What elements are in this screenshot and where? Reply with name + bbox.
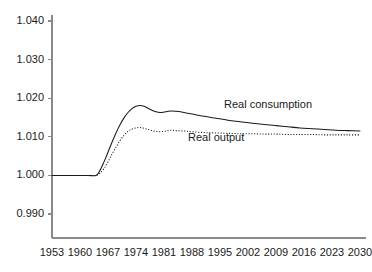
x-axis-tick-label: 1953 <box>40 246 64 258</box>
x-axis-tick-label: 1967 <box>96 246 120 258</box>
x-axis-tick-label: 2030 <box>348 246 372 258</box>
y-axis-tick-label: 1.040 <box>16 14 44 26</box>
x-axis-tick-label: 1988 <box>180 246 204 258</box>
series-annotation-label: Real output <box>188 131 244 143</box>
y-axis-tick-label: 1.030 <box>16 53 44 65</box>
x-axis-tick-label: 2002 <box>236 246 260 258</box>
y-axis-tick-label: 1.020 <box>16 91 44 103</box>
x-axis-tick-label: 2016 <box>292 246 316 258</box>
x-axis-group: 1953196019671974198119881995200220092016… <box>40 238 372 258</box>
y-axis-ticks <box>48 21 52 214</box>
x-axis-tick-label: 1974 <box>124 246 148 258</box>
x-axis-tick-label: 1995 <box>208 246 232 258</box>
line-chart-canvas: 0.9901.0001.0101.0201.0301.040 195319601… <box>0 0 372 272</box>
y-axis-tick-labels: 0.9901.0001.0101.0201.0301.040 <box>16 14 44 219</box>
x-axis-tick-label: 2009 <box>264 246 288 258</box>
series-annotation-label: Real consumption <box>224 98 312 110</box>
series-annotations: Real consumptionReal output <box>188 98 312 143</box>
x-axis-tick-labels: 1953196019671974198119881995200220092016… <box>40 246 372 258</box>
y-axis-group: 0.9901.0001.0101.0201.0301.040 <box>16 14 52 238</box>
x-axis-tick-label: 1981 <box>152 246 176 258</box>
x-axis-tick-label: 1960 <box>68 246 92 258</box>
y-axis-tick-label: 0.990 <box>16 207 44 219</box>
chart-figure: 0.9901.0001.0101.0201.0301.040 195319601… <box>0 0 372 272</box>
x-axis-tick-label: 2023 <box>320 246 344 258</box>
y-axis-tick-label: 1.010 <box>16 130 44 142</box>
y-axis-tick-label: 1.000 <box>16 168 44 180</box>
